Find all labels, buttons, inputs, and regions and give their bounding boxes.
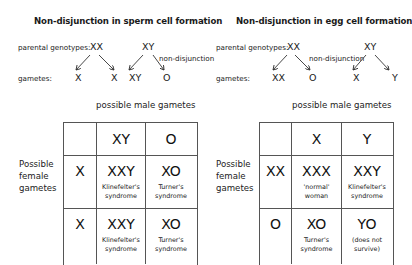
right-col-header-2: Y bbox=[342, 131, 392, 147]
note-line: syndrome bbox=[97, 192, 145, 201]
note-line: Turner's bbox=[146, 236, 196, 245]
cell-note: Turner'ssyndrome bbox=[146, 236, 196, 254]
divider bbox=[259, 155, 393, 156]
left-col-header-2: O bbox=[146, 131, 196, 147]
note-line: Klinefelter's bbox=[97, 236, 145, 245]
cell-note: Turner'ssyndrome bbox=[146, 183, 196, 201]
left-row-header-2: X bbox=[64, 216, 96, 232]
right-cell-r1c1: XXX 'normal'woman bbox=[292, 163, 341, 201]
cell-genotype: XXY bbox=[97, 163, 145, 179]
cell-note: Turner'ssyndrome bbox=[292, 236, 341, 254]
divider bbox=[63, 155, 197, 156]
note-line: syndrome bbox=[97, 245, 145, 254]
left-cell-r1c1: XXY Klinefelter'ssyndrome bbox=[97, 163, 145, 201]
right-arrows-icon bbox=[0, 0, 412, 90]
right-row-header-1: XX bbox=[260, 163, 291, 179]
note-line: Klinefelter's bbox=[342, 183, 392, 192]
note-line: 'normal' bbox=[292, 183, 341, 192]
side-label-line: Possible bbox=[216, 158, 254, 170]
cell-genotype: XO bbox=[146, 216, 196, 232]
note-line: woman bbox=[292, 192, 341, 201]
left-table-caption: possible male gametes bbox=[96, 100, 195, 110]
note-line: (does not bbox=[342, 236, 392, 245]
divider bbox=[259, 208, 393, 209]
note-line: syndrome bbox=[146, 192, 196, 201]
right-side-label: Possible female gametes bbox=[216, 158, 254, 194]
cell-genotype: XXY bbox=[342, 163, 392, 179]
cell-note: Klinefelter'ssyndrome bbox=[97, 236, 145, 254]
note-line: Klinefelter's bbox=[97, 183, 145, 192]
right-cell-r1c2: XXY Klinefelter'ssyndrome bbox=[342, 163, 392, 201]
note-line: Turner's bbox=[146, 183, 196, 192]
cell-genotype: XXY bbox=[97, 216, 145, 232]
cell-note: Klinefelter'ssyndrome bbox=[342, 183, 392, 201]
left-row-header-1: X bbox=[64, 163, 96, 179]
left-cell-r2c1: XXY Klinefelter'ssyndrome bbox=[97, 216, 145, 254]
left-cell-r2c2: XO Turner'ssyndrome bbox=[146, 216, 196, 254]
cell-note: (does notsurvive) bbox=[342, 236, 392, 254]
cell-note: 'normal'woman bbox=[292, 183, 341, 201]
cell-genotype: XO bbox=[292, 216, 341, 232]
left-col-header-1: XY bbox=[97, 131, 145, 147]
note-line: syndrome bbox=[342, 192, 392, 201]
right-col-header-1: X bbox=[292, 131, 341, 147]
note-line: survive) bbox=[342, 245, 392, 254]
divider bbox=[63, 208, 197, 209]
side-label-line: Possible bbox=[19, 158, 57, 170]
cell-note: Klinefelter'ssyndrome bbox=[97, 183, 145, 201]
cell-genotype: XO bbox=[146, 163, 196, 179]
right-row-header-2: O bbox=[260, 216, 291, 232]
right-cell-r2c1: XO Turner'ssyndrome bbox=[292, 216, 341, 254]
cell-genotype: XXX bbox=[292, 163, 341, 179]
note-line: syndrome bbox=[146, 245, 196, 254]
side-label-line: female bbox=[19, 170, 57, 182]
right-cell-r2c2: YO (does notsurvive) bbox=[342, 216, 392, 254]
note-line: syndrome bbox=[292, 245, 341, 254]
left-side-label: Possible female gametes bbox=[19, 158, 57, 194]
left-cell-r1c2: XO Turner'ssyndrome bbox=[146, 163, 196, 201]
side-label-line: female bbox=[216, 170, 254, 182]
cell-genotype: YO bbox=[342, 216, 392, 232]
note-line: Turner's bbox=[292, 236, 341, 245]
side-label-line: gametes bbox=[19, 182, 57, 194]
right-table-caption: possible male gametes bbox=[292, 100, 391, 110]
side-label-line: gametes bbox=[216, 182, 254, 194]
